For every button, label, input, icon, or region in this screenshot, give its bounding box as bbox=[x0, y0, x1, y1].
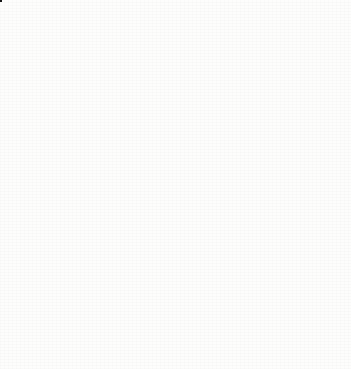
scan-grain-overlay bbox=[0, 0, 351, 369]
figure-page bbox=[0, 0, 351, 369]
bottom-bar-chart bbox=[0, 0, 2, 2]
annotation-layer bbox=[0, 0, 351, 369]
